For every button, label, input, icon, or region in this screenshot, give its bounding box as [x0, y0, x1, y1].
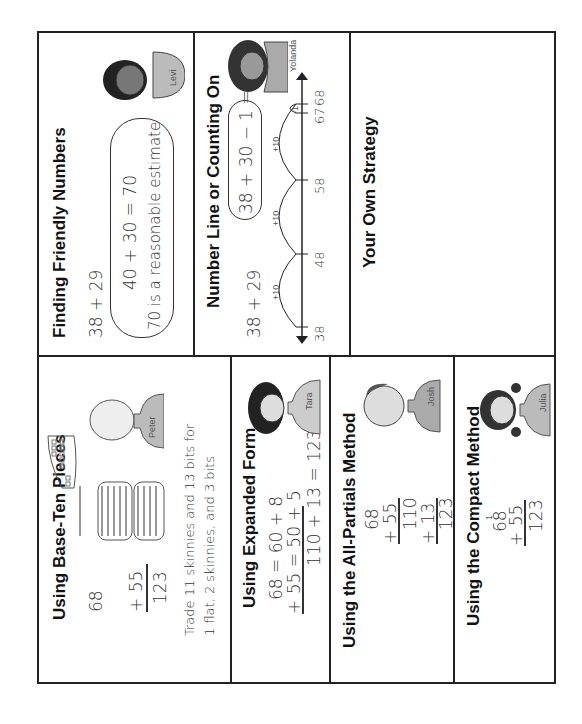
- compact-n2: + 55: [506, 505, 526, 546]
- addend-bottom: + 55: [126, 571, 146, 612]
- note-line-1: Trade 11 skinnies and 13 bits for: [182, 424, 197, 636]
- expanded-line-1: 68 = 60 + 8: [266, 496, 286, 600]
- divider: [193, 31, 195, 356]
- compact-sum: 123: [526, 500, 546, 532]
- jump-label: -1: [290, 106, 300, 114]
- expanded-line-3: 110 + 13 = 123: [304, 429, 324, 566]
- jump-label: +10: [271, 211, 281, 226]
- jump-label: +10: [271, 285, 281, 300]
- jump-label: +10: [271, 137, 281, 152]
- note-line-2: 1 flat, 2 skinnies, and 3 bits: [202, 456, 217, 636]
- section-title: Using Expanded Form: [240, 428, 260, 608]
- tick-48: 48: [312, 251, 327, 268]
- character-label: Julia: [538, 393, 548, 412]
- partials-n2: + 55: [380, 503, 400, 544]
- partials-sum: 123: [436, 498, 456, 530]
- character-label: Josh: [426, 387, 436, 406]
- number-line: [262, 70, 342, 346]
- tick-58: 58: [312, 177, 327, 194]
- cloud-estimate: 70 is a reasonable estimate: [146, 122, 164, 330]
- tick-38: 38: [312, 325, 327, 342]
- character-label: Tara: [304, 392, 314, 410]
- base-ten-bits: [44, 432, 80, 492]
- base-ten-blocks: [74, 478, 166, 544]
- divider: [329, 356, 331, 684]
- section-title: Number Line or Counting On: [204, 75, 224, 308]
- character-label: Yolanda: [288, 40, 298, 72]
- divider: [349, 31, 351, 356]
- partials-p2: + 13: [418, 503, 438, 544]
- expanded-line-2: + 55 = 50 + 5: [284, 490, 304, 614]
- cloud-equation: 40 + 30 = 70: [120, 175, 140, 290]
- partials-n1: 68: [362, 508, 382, 530]
- tick-67: 67: [312, 107, 327, 124]
- character-label: Peter: [147, 416, 157, 438]
- addend-top: 68: [86, 590, 106, 612]
- section-title: Finding Friendly Numbers: [50, 127, 70, 338]
- section-title: Using the All-Partials Method: [340, 412, 360, 648]
- problem-text: 38 + 29: [86, 270, 106, 338]
- problem-text: 38 + 29: [244, 270, 264, 338]
- sum: 123: [150, 572, 170, 604]
- partials-p1: 110: [400, 498, 420, 530]
- divider: [37, 355, 556, 357]
- tick-68: 68: [312, 89, 327, 106]
- section-title: Your Own Strategy: [360, 116, 380, 268]
- sum-line: [146, 564, 148, 612]
- character-label: Levi: [168, 69, 178, 86]
- divider: [230, 356, 232, 684]
